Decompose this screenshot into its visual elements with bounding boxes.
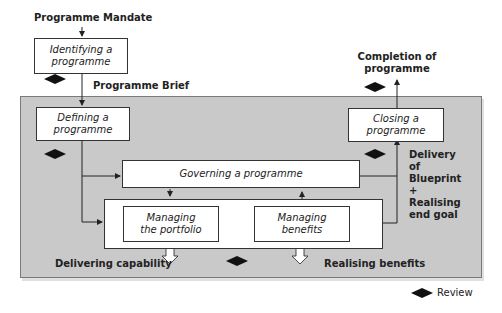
review-diamond [44,74,66,84]
realising-benefits-label: Realising benefits [324,258,425,270]
legend-review-label: Review [437,287,473,298]
delivering-capability-label: Delivering capability [55,258,172,270]
defining-a-programme-box[interactable]: Defining a programme [36,107,130,141]
delivery-of-blueprint-label: Delivery of Blueprint + Realising end go… [409,149,469,221]
closing-a-programme-box[interactable]: Closing a programme [348,108,444,142]
managing-the-portfolio-box[interactable]: Managing the portfolio [123,206,219,242]
managing-benefits-box[interactable]: Managing benefits [254,206,350,242]
programme-mandate-label: Programme Mandate [34,12,152,24]
identifying-a-programme-box[interactable]: Identifying a programme [34,38,128,74]
completion-of-programme-label: Completion of programme [352,51,442,75]
governing-a-programme-box[interactable]: Governing a programme [122,160,360,188]
programme-brief-label: Programme Brief [93,80,189,92]
